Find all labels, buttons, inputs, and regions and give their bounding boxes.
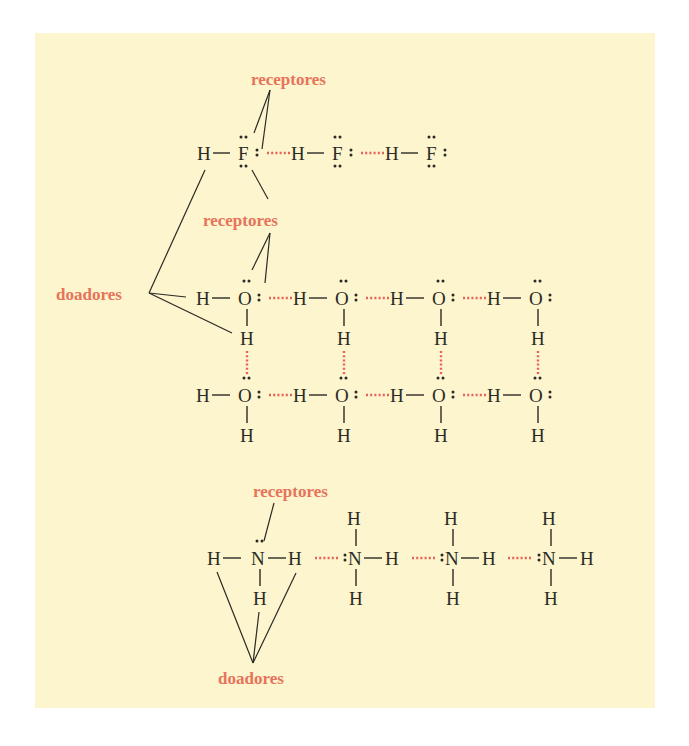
water-grid: receptores doadores H O H H O H — [56, 170, 552, 446]
hydrogen-atom: H — [446, 588, 460, 609]
pointer-line — [262, 90, 270, 149]
hydrogen-atom: H — [196, 385, 210, 406]
hydrogen-atom: H — [542, 508, 556, 529]
water-receptors-label: receptores — [203, 211, 278, 230]
pointer-line — [149, 293, 232, 333]
hydrogen-atom: H — [207, 548, 221, 569]
hydrogen-atom: H — [487, 385, 501, 406]
hydrogen-atom: H — [337, 425, 351, 446]
hydrogen-atom: H — [531, 425, 545, 446]
oxygen-atom: O — [238, 385, 252, 406]
oxygen-atom: O — [529, 288, 543, 309]
water-row-2: H O H H O H H O H H O — [196, 377, 552, 447]
hydrogen-atom: H — [390, 385, 404, 406]
hydrogen-atom: H — [580, 548, 594, 569]
nitrogen-atom: N — [251, 548, 265, 569]
oxygen-atom: O — [238, 288, 252, 309]
hydrogen-atom: H — [434, 425, 448, 446]
hydrogen-atom: H — [349, 588, 363, 609]
hydrogen-atom: H — [434, 328, 448, 349]
oxygen-atom: O — [335, 288, 349, 309]
hydrogen-atom: H — [531, 328, 545, 349]
nitrogen-atom: N — [542, 548, 556, 569]
hydrogen-atom: H — [240, 425, 254, 446]
donors-left-label: doadores — [56, 285, 122, 304]
hydrogen-atom: H — [390, 288, 404, 309]
hydrogen-atom: H — [487, 288, 501, 309]
donors-bottom-label: doadores — [218, 669, 284, 688]
hf-receptors-label: receptores — [251, 70, 326, 89]
hydrogen-atom: H — [385, 548, 399, 569]
hydrogen-atom: H — [544, 588, 558, 609]
ammonia-receptors-label: receptores — [253, 482, 328, 501]
fluorine-atom: F — [238, 143, 249, 164]
pointer-line — [149, 170, 205, 293]
nitrogen-atom: N — [445, 548, 459, 569]
hydrogen-atom: H — [293, 288, 307, 309]
fluorine-atom: F — [426, 143, 437, 164]
hydrogen-atom: H — [288, 548, 302, 569]
pointer-line — [217, 572, 253, 663]
pointer-line — [252, 170, 268, 199]
fluorine-atom: F — [332, 143, 343, 164]
hydrogen-atom: H — [293, 385, 307, 406]
hydrogen-atom: H — [240, 328, 254, 349]
oxygen-atom: O — [335, 385, 349, 406]
hydrogen-atom: H — [197, 143, 211, 164]
hydrogen-bond-diagram: receptores H F H F H F — [0, 0, 689, 746]
hydrogen-atom: H — [253, 588, 267, 609]
hf-chain: receptores H F H F H F — [197, 70, 447, 168]
oxygen-atom: O — [432, 288, 446, 309]
hydrogen-atom: H — [291, 143, 305, 164]
hydrogen-atom: H — [444, 508, 458, 529]
water-row-1: H O H H O H H O H H — [196, 280, 552, 350]
pointer-line — [253, 573, 296, 663]
pointer-line — [264, 503, 274, 541]
ammonia-chain: receptores H N H H H N H H H N H H H — [207, 482, 594, 688]
nitrogen-atom: N — [348, 548, 362, 569]
oxygen-atom: O — [432, 385, 446, 406]
hydrogen-atom: H — [385, 143, 399, 164]
oxygen-atom: O — [529, 385, 543, 406]
hydrogen-atom: H — [482, 548, 496, 569]
hydrogen-atom: H — [337, 328, 351, 349]
pointer-line — [149, 293, 186, 297]
hydrogen-atom: H — [347, 508, 361, 529]
hydrogen-atom: H — [196, 288, 210, 309]
